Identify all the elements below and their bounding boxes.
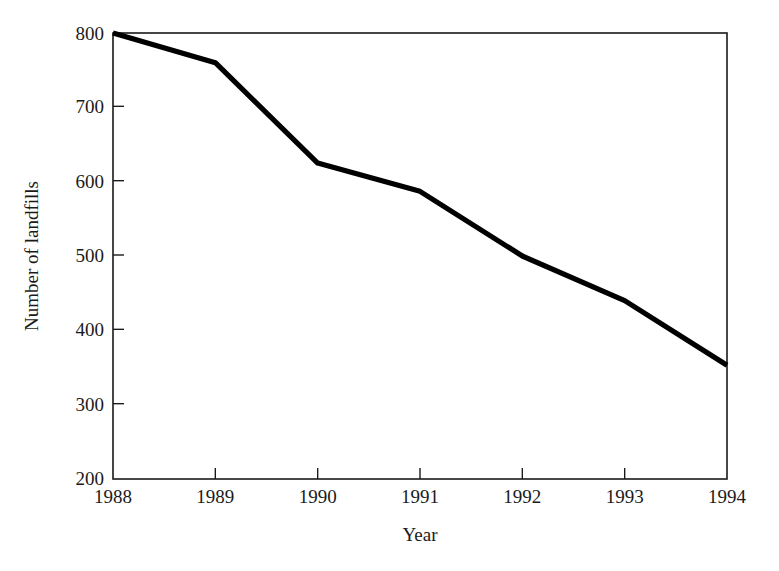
x-tick-label-1993: 1993	[606, 486, 644, 507]
x-tick-label-1992: 1992	[503, 486, 541, 507]
x-tick-label-1989: 1989	[196, 486, 234, 507]
y-tick-label-600: 600	[76, 171, 105, 192]
x-axis-title: Year	[402, 524, 438, 545]
line-chart-figure: 800 700 600 500 400 300 200 1988 1989 19…	[0, 0, 779, 571]
y-tick-label-700: 700	[76, 96, 105, 117]
y-tick-label-500: 500	[76, 245, 105, 266]
chart-canvas: 800 700 600 500 400 300 200 1988 1989 19…	[0, 0, 779, 571]
y-tick-label-800: 800	[76, 23, 105, 44]
x-tick-label-1991: 1991	[401, 486, 439, 507]
x-tick-label-1988: 1988	[94, 486, 132, 507]
x-tick-label-1990: 1990	[299, 486, 337, 507]
x-tick-label-1994: 1994	[708, 486, 747, 507]
y-tick-label-300: 300	[76, 394, 105, 415]
y-tick-label-400: 400	[76, 319, 105, 340]
y-axis-title: Number of landfills	[21, 181, 42, 331]
